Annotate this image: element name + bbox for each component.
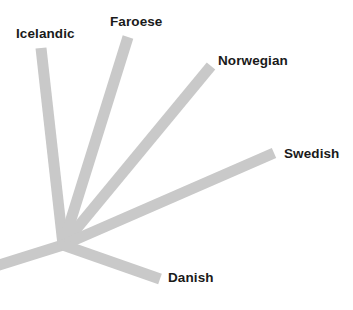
- branch-icelandic: [41, 48, 63, 245]
- phylogenetic-tree-figure: Icelandic Faroese Norwegian Swedish Dani…: [0, 0, 353, 310]
- branch-root: [0, 245, 63, 266]
- taxon-label-danish: Danish: [168, 271, 214, 285]
- branch-danish: [63, 245, 160, 279]
- taxon-label-norwegian: Norwegian: [218, 54, 288, 68]
- taxon-label-icelandic: Icelandic: [16, 27, 75, 41]
- branch-group: [0, 37, 274, 279]
- taxon-label-faroese: Faroese: [110, 15, 162, 29]
- taxon-label-swedish: Swedish: [284, 147, 339, 161]
